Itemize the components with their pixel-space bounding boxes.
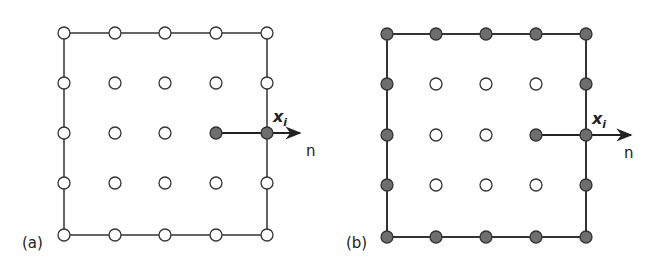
panel-a: xi n (a) [22, 27, 316, 252]
empty-node [261, 77, 273, 89]
empty-node [58, 127, 70, 139]
empty-node [430, 129, 442, 141]
empty-node [109, 229, 121, 241]
panel-b: xi n (b) [346, 28, 634, 252]
empty-node [109, 177, 121, 189]
filled-node [381, 28, 393, 40]
empty-node [159, 77, 171, 89]
filled-node [580, 28, 592, 40]
empty-node [480, 78, 492, 90]
node-label-xi: xi [272, 107, 287, 129]
filled-node [530, 28, 542, 40]
filled-node [210, 127, 222, 139]
empty-node [430, 179, 442, 191]
filled-node [530, 129, 542, 141]
empty-node [109, 27, 121, 39]
filled-node [381, 231, 393, 243]
empty-node [261, 27, 273, 39]
empty-node [261, 229, 273, 241]
empty-node [109, 127, 121, 139]
filled-node [381, 179, 393, 191]
empty-node [430, 78, 442, 90]
filled-node [261, 127, 273, 139]
panel-label-a: (a) [22, 234, 43, 252]
empty-node [58, 77, 70, 89]
filled-node [430, 28, 442, 40]
empty-node [58, 27, 70, 39]
empty-node [210, 27, 222, 39]
empty-node [530, 179, 542, 191]
empty-node [159, 229, 171, 241]
empty-node [159, 27, 171, 39]
empty-node [530, 78, 542, 90]
filled-node [580, 78, 592, 90]
filled-node [580, 129, 592, 141]
empty-node [480, 179, 492, 191]
empty-node [159, 127, 171, 139]
empty-node [261, 177, 273, 189]
empty-node [109, 77, 121, 89]
filled-node [580, 179, 592, 191]
figure: xi n (a) xi n (b) [0, 0, 662, 270]
empty-node [58, 229, 70, 241]
empty-node [210, 77, 222, 89]
panel-label-b: (b) [346, 234, 367, 252]
empty-node [480, 129, 492, 141]
empty-node [159, 177, 171, 189]
filled-node [530, 231, 542, 243]
empty-node [58, 177, 70, 189]
node-grid [58, 27, 273, 241]
filled-node [381, 78, 393, 90]
normal-label-n: n [306, 142, 316, 160]
node-label-xi: xi [591, 109, 606, 131]
filled-node [480, 231, 492, 243]
filled-node [381, 129, 393, 141]
normal-label-n: n [624, 144, 634, 162]
filled-node [580, 231, 592, 243]
empty-node [210, 177, 222, 189]
filled-node [430, 231, 442, 243]
empty-node [210, 229, 222, 241]
filled-node [480, 28, 492, 40]
